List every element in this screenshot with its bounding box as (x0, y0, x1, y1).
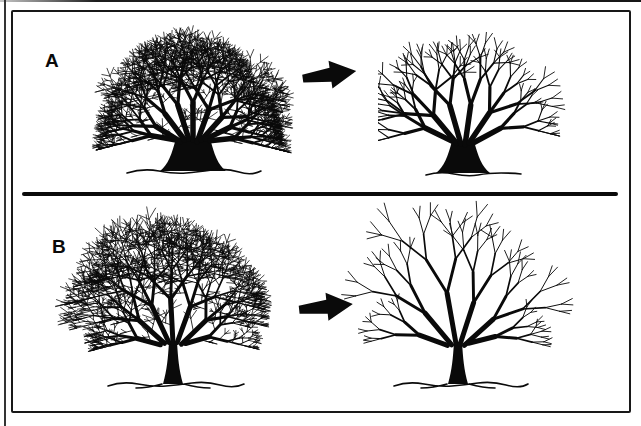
scan-edge-top-line (0, 0, 641, 2)
scanned-diagram-page: A B (0, 0, 641, 426)
unpruned-shrub-illustration (75, 16, 305, 180)
panel-a-label: A (45, 51, 59, 70)
scan-edge-left-line (4, 0, 6, 426)
unpruned-tree-illustration (50, 196, 300, 396)
pruned-shrub-illustration (378, 18, 588, 180)
pruned-tree-illustration (328, 196, 618, 396)
